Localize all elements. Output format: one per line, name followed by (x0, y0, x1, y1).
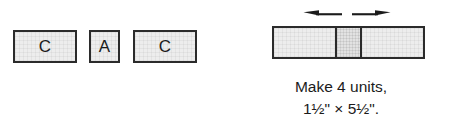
fabric-piece-c-right: C (133, 30, 197, 63)
caption-line-make-count: Make 4 units, (246, 76, 436, 98)
fabric-piece-label: C (159, 38, 171, 55)
arrow-right-icon (352, 10, 391, 15)
cut-pieces-row: C A C (0, 0, 226, 129)
fabric-piece-c-left: C (13, 30, 77, 63)
strip-segment-a (335, 28, 362, 57)
assembled-strip (272, 26, 425, 59)
fabric-piece-label: A (99, 38, 110, 55)
press-arrows-svg (302, 6, 392, 22)
unit-caption: Make 4 units, 1½" × 5½". (246, 76, 436, 120)
fabric-piece-label: C (39, 38, 51, 55)
strip-segment-c-right (362, 28, 423, 57)
diagram-canvas: C A C (0, 0, 452, 129)
strip-segment-c-left (274, 28, 335, 57)
fabric-piece-a: A (89, 30, 120, 63)
caption-line-dimensions: 1½" × 5½". (246, 98, 436, 120)
arrow-left-icon (304, 10, 343, 15)
assembled-unit-group: Make 4 units, 1½" × 5½". (226, 0, 452, 129)
press-seams-outward-arrows (302, 6, 392, 22)
